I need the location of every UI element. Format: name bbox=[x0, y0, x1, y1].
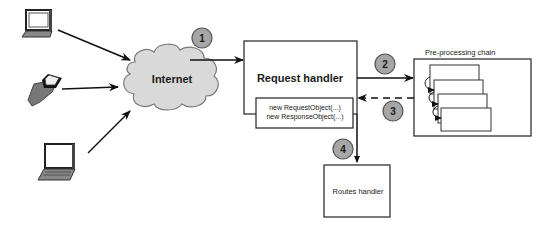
arrow-desktop-to-internet bbox=[58, 30, 130, 60]
preprocessing-label: Pre-processing chain bbox=[425, 48, 495, 57]
response-object-line: new ResponseObject(...) bbox=[266, 113, 343, 121]
svg-text:3: 3 bbox=[390, 106, 396, 117]
architecture-diagram: Internet 1 Request handler new RequestOb… bbox=[0, 0, 553, 228]
step-badge-3: 3 bbox=[383, 101, 403, 121]
step-badge-1: 1 bbox=[192, 28, 212, 48]
internet-cloud: Internet bbox=[124, 44, 219, 110]
request-handler-label: Request handler bbox=[257, 72, 344, 84]
laptop-icon bbox=[38, 144, 75, 180]
arrow-handheld-to-internet bbox=[62, 87, 118, 89]
request-object-line: new RequestObject(...) bbox=[269, 104, 341, 112]
step-badge-4: 4 bbox=[333, 139, 353, 159]
svg-text:2: 2 bbox=[382, 59, 388, 70]
arrow-laptop-to-internet bbox=[88, 111, 130, 153]
handheld-device-icon bbox=[28, 74, 62, 106]
desktop-computer-icon bbox=[22, 10, 52, 37]
routes-handler-label: Routes handler bbox=[333, 187, 384, 196]
svg-text:4: 4 bbox=[340, 144, 346, 155]
internet-label: Internet bbox=[152, 73, 193, 85]
step-badge-2: 2 bbox=[375, 54, 395, 74]
preprocessing-chain: Pre-processing chain bbox=[414, 48, 531, 136]
chain-stage-4 bbox=[441, 108, 491, 131]
svg-text:1: 1 bbox=[199, 33, 205, 44]
request-handler-box: Request handler new RequestObject(...) n… bbox=[244, 41, 357, 128]
routes-handler-box: Routes handler bbox=[324, 165, 390, 217]
